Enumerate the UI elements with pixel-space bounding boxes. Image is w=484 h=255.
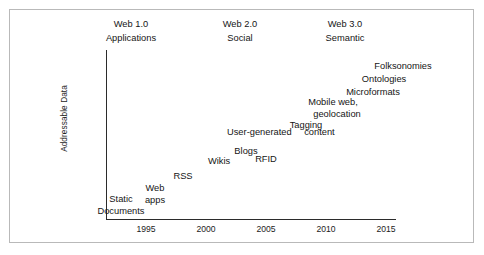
data-label-mobile-geolocation: Mobile web, geolocation	[297, 97, 369, 120]
x-tick-2015: 2015	[369, 224, 403, 234]
x-tick-2000: 2000	[189, 224, 223, 234]
data-label-ontologies: Ontologies	[352, 74, 416, 86]
x-tick-2010: 2010	[309, 224, 343, 234]
data-label-rfid: RFID	[251, 154, 281, 166]
data-label-static-documents-line2: Documents	[97, 206, 144, 216]
data-label-tagging: Tagging	[284, 120, 328, 132]
data-label-web-apps-line1: Web	[146, 183, 165, 193]
data-label-mobile-line2: geolocation	[313, 109, 361, 119]
chart-figure: Web 1.0 Applications Web 2.0 Social Web …	[0, 0, 484, 255]
data-label-web-apps-line2: apps	[145, 195, 165, 205]
data-label-static-documents-line1: Static	[109, 194, 132, 204]
era-header-web2-subtitle: Social	[197, 32, 283, 46]
x-tick-1995: 1995	[129, 224, 163, 234]
x-axis-line	[106, 219, 396, 220]
era-header-web1-subtitle: Applications	[88, 32, 174, 46]
data-label-ugc-line1: User-generated	[227, 127, 292, 137]
data-label-folksonomies: Folksonomies	[365, 61, 441, 73]
x-tick-2005: 2005	[249, 224, 283, 234]
data-label-rss: RSS	[168, 171, 198, 183]
data-label-wikis: Wikis	[201, 156, 237, 168]
data-label-web-apps: Web apps	[137, 183, 173, 206]
era-header-web2: Web 2.0 Social	[197, 18, 283, 45]
data-label-mobile-line1: Mobile web,	[308, 97, 358, 107]
era-header-web3-subtitle: Semantic	[302, 32, 388, 46]
data-label-rss-text: RSS	[173, 171, 192, 181]
era-header-web3-title: Web 3.0	[328, 19, 362, 29]
data-label-tagging-text: Tagging	[290, 120, 323, 130]
data-label-microformats: Microformats	[337, 87, 409, 99]
data-label-ontologies-text: Ontologies	[362, 74, 406, 84]
data-label-rfid-text: RFID	[255, 154, 277, 164]
era-header-web1-title: Web 1.0	[114, 19, 148, 29]
era-header-web3: Web 3.0 Semantic	[302, 18, 388, 45]
y-axis-label: Addressable Data	[60, 64, 69, 174]
data-label-folksonomies-text: Folksonomies	[374, 61, 431, 71]
data-label-microformats-text: Microformats	[346, 87, 400, 97]
data-label-wikis-text: Wikis	[208, 156, 230, 166]
figure-frame: Web 1.0 Applications Web 2.0 Social Web …	[9, 9, 474, 243]
era-header-web2-title: Web 2.0	[223, 19, 257, 29]
era-header-web1: Web 1.0 Applications	[88, 18, 174, 45]
